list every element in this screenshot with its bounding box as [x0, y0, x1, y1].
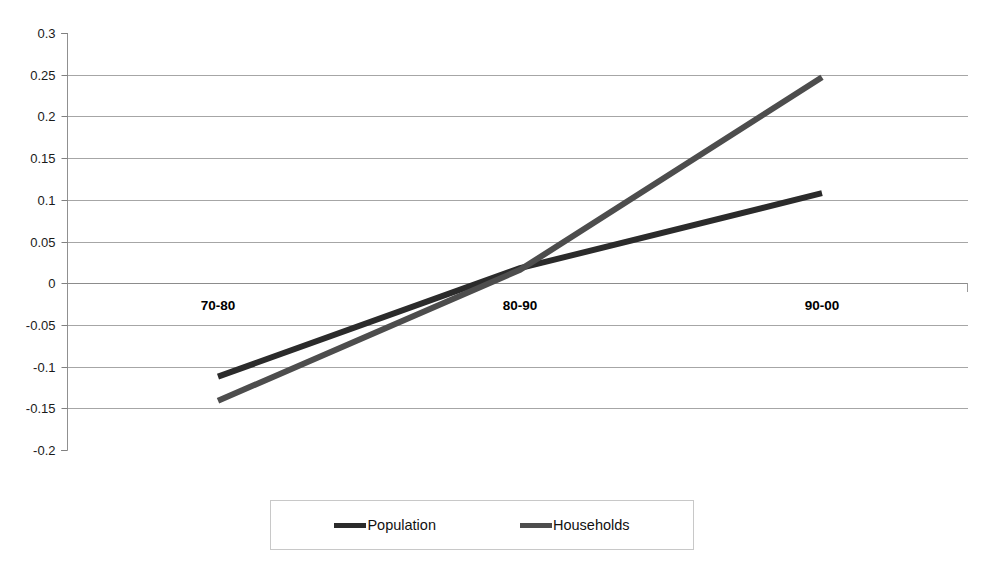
chart-legend: Population Households [270, 500, 694, 550]
line-chart-plot-area: 0.30.250.20.150.10.050-0.05-0.1-0.15-0.2… [0, 0, 993, 470]
y-tick-label: 0 [48, 276, 55, 291]
legend-swatch-households-icon [520, 523, 552, 528]
legend-label-households: Households [553, 518, 630, 533]
series-lines-group [218, 77, 822, 401]
y-tick-label: -0.05 [26, 318, 56, 333]
y-tick-label: -0.1 [33, 360, 55, 375]
category-label: 90-00 [805, 298, 840, 313]
y-tick-label: 0.05 [30, 235, 55, 250]
series-line-population[interactable] [218, 193, 822, 376]
legend-entry-households[interactable]: Households [520, 518, 630, 533]
category-label: 80-90 [503, 298, 538, 313]
y-tick-label: 0.25 [30, 68, 55, 83]
y-tick-label: 0.1 [37, 193, 55, 208]
y-tick-labels-group: 0.30.250.20.150.10.050-0.05-0.1-0.15-0.2 [26, 26, 56, 458]
chart-svg: 0.30.250.20.150.10.050-0.05-0.1-0.15-0.2… [0, 0, 993, 470]
gridlines-group [68, 76, 969, 409]
y-tick-label: -0.2 [33, 443, 55, 458]
chart-page: 0.30.250.20.150.10.050-0.05-0.1-0.15-0.2… [0, 0, 993, 579]
category-label: 70-80 [201, 298, 236, 313]
series-line-households[interactable] [218, 77, 822, 401]
legend-swatch-population-icon [334, 523, 366, 528]
y-tick-label: 0.15 [30, 151, 55, 166]
legend-label-population: Population [367, 518, 436, 533]
legend-entry-population[interactable]: Population [334, 518, 436, 533]
y-tick-label: -0.15 [26, 401, 56, 416]
category-labels-group: 70-8080-9090-00 [201, 298, 840, 313]
y-tick-label: 0.3 [37, 26, 55, 41]
legend-entries: Population Households [271, 501, 693, 549]
y-tick-label: 0.2 [37, 109, 55, 124]
y-tick-marks-group [62, 34, 68, 451]
